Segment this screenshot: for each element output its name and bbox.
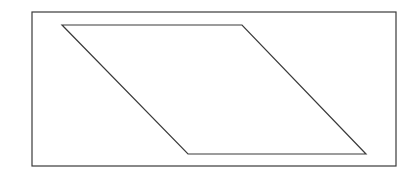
outer-frame: [32, 12, 396, 166]
parallelogram-shape: [62, 25, 366, 154]
diagram-canvas: [0, 0, 416, 173]
